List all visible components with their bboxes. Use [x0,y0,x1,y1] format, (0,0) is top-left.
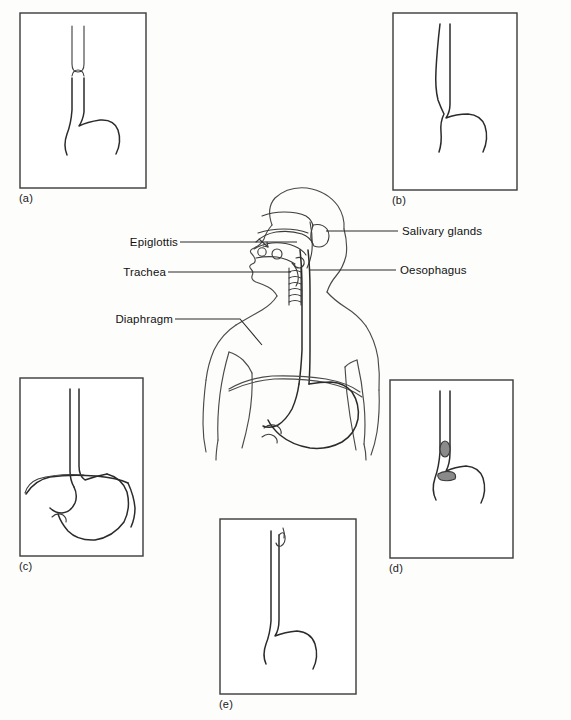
cranium-outline [270,188,345,229]
label-oesophagus: Oesophagus [400,264,467,276]
figure-page: Epiglottis Trachea Diaphragm Salivary gl… [0,0,571,720]
trachea-ring-4 [289,289,301,291]
panel-label-c: (c) [19,560,32,572]
salivary-gland-sublingual [258,248,266,256]
panel-b [393,13,517,190]
salivary-gland-parotid [311,225,329,248]
panel-e-box [220,519,356,694]
panel-label-a: (a) [19,192,33,204]
label-salivary-glands: Salivary glands [402,225,482,237]
stomach-antrum-fold [262,434,277,443]
face-profile [250,225,277,296]
label-trachea: Trachea [92,266,166,278]
trachea-ring-6 [289,301,301,303]
shoulder-right [366,326,379,390]
panel-d-bolus-upper [440,441,450,457]
armpit-left [229,352,252,373]
panel-a-box [20,13,146,188]
panel-b-box [393,13,517,190]
torso-left-side [218,352,229,440]
leader-diaphragm [175,319,262,345]
torso-right-side [357,360,365,444]
torso-right-lower [345,367,356,450]
anatomy-figure [0,0,571,720]
panel-label-b: (b) [392,194,406,206]
waist-right [364,444,366,460]
panel-c-box [20,378,143,556]
stomach-greater-curvature [268,382,358,448]
label-epiglottis: Epiglottis [104,236,178,248]
panel-label-d: (d) [389,562,403,574]
label-diaphragm: Diaphragm [96,313,173,325]
armpit-right [345,360,357,367]
arm-left-outer [203,380,206,452]
tongue [254,243,306,255]
back-of-head-line [327,229,347,292]
panel-c [20,378,143,556]
oesophagus-right-wall [308,250,310,384]
diaphragm-line-lower [229,379,362,397]
panel-e [220,519,356,694]
nasal-cavity [262,212,313,226]
trachea-ring-2 [289,277,301,279]
trachea-ring-3 [289,283,301,285]
panel-d-bolus-lower [438,471,456,480]
central-figure [203,188,379,460]
panel-label-e: (e) [219,698,233,710]
neck-left-line [236,296,277,325]
panel-d [390,380,513,558]
waist-left [216,440,218,460]
arm-right-outer [371,390,379,455]
panel-a [20,13,146,188]
neck-right-line [327,292,366,326]
epiglottis-flap [294,257,304,268]
annotation-leaders [168,231,398,345]
oral-floor [256,257,295,264]
trachea-ring-5 [289,295,301,297]
